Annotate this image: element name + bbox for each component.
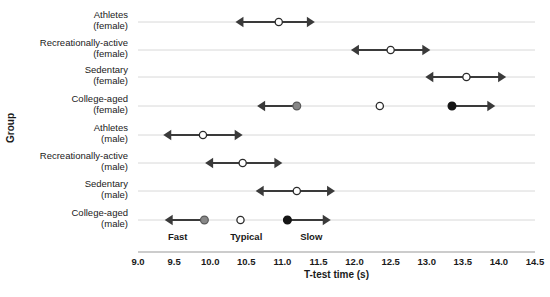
category-label-line-2: (female) xyxy=(93,48,128,59)
category-label-line-1: Sedentary xyxy=(85,178,129,189)
data-row-4 xyxy=(163,130,242,140)
category-label-line-1: Recreationally-active xyxy=(40,37,128,48)
data-marker-open-3-1[interactable] xyxy=(376,102,383,109)
data-row-3 xyxy=(257,101,495,111)
x-tick-label-5: 11.5 xyxy=(309,256,328,267)
arrow-left-6-0 xyxy=(256,186,264,196)
arrow-left-2-0 xyxy=(425,72,433,82)
category-label-line-2: (female) xyxy=(93,75,128,86)
arrow-right-5-0 xyxy=(274,158,282,168)
chart-container: Athletes(female)Recreationally-active(fe… xyxy=(0,0,550,297)
data-marker-black-7-2[interactable] xyxy=(284,216,292,224)
x-tick-label-2: 10.0 xyxy=(201,256,220,267)
data-marker-open-6-0[interactable] xyxy=(293,187,300,194)
category-label-2: Sedentary(female) xyxy=(85,64,129,86)
x-axis-title: T-test time (s) xyxy=(304,269,369,280)
data-marker-open-7-1[interactable] xyxy=(237,216,244,223)
arrow-left-7-0 xyxy=(165,215,173,225)
data-marker-open-5-0[interactable] xyxy=(239,159,246,166)
arrow-left-4-0 xyxy=(163,130,171,140)
x-tick-label-6: 12.0 xyxy=(345,256,364,267)
arrow-right-0-0 xyxy=(307,17,315,27)
y-axis-title: Group xyxy=(5,113,16,143)
zone-label-slow: Slow xyxy=(300,231,323,242)
x-tick-label-0: 9.0 xyxy=(131,256,144,267)
category-label-line-2: (male) xyxy=(101,189,128,200)
x-tick-label-11: 14.5 xyxy=(526,256,545,267)
category-label-5: Recreationally-active(male) xyxy=(40,150,128,172)
arrow-left-0-0 xyxy=(235,17,243,27)
category-label-line-2: (male) xyxy=(101,161,128,172)
data-marker-gray-3-0[interactable] xyxy=(293,102,301,110)
category-label-7: College-aged(male) xyxy=(71,207,128,229)
arrow-left-1-0 xyxy=(351,45,359,55)
arrow-right-2-0 xyxy=(498,72,506,82)
data-marker-open-4-0[interactable] xyxy=(199,131,206,138)
arrow-left-5-0 xyxy=(205,158,213,168)
arrow-right-7-2 xyxy=(323,215,331,225)
category-label-line-2: (male) xyxy=(101,218,128,229)
category-label-line-1: Recreationally-active xyxy=(40,150,128,161)
x-tick-label-7: 12.5 xyxy=(381,256,400,267)
data-row-6 xyxy=(256,186,335,196)
data-row-2 xyxy=(425,72,506,82)
x-tick-label-3: 10.5 xyxy=(237,256,256,267)
arrow-right-3-2 xyxy=(487,101,495,111)
category-label-1: Recreationally-active(female) xyxy=(40,37,128,59)
category-label-6: Sedentary(male) xyxy=(85,178,129,200)
category-label-line-1: College-aged xyxy=(71,93,128,104)
category-label-line-1: Athletes xyxy=(94,9,129,20)
category-label-3: College-aged(female) xyxy=(71,93,128,115)
category-label-line-2: (female) xyxy=(93,104,128,115)
x-tick-label-10: 14.0 xyxy=(490,256,509,267)
x-tick-label-4: 11.0 xyxy=(273,256,291,267)
data-marker-gray-7-0[interactable] xyxy=(201,216,209,224)
arrow-right-4-0 xyxy=(235,130,243,140)
category-label-line-1: Athletes xyxy=(94,122,129,133)
arrow-left-3-0 xyxy=(257,101,265,111)
category-label-0: Athletes(female) xyxy=(93,9,128,31)
x-tick-label-9: 13.5 xyxy=(454,256,473,267)
data-row-1 xyxy=(351,45,430,55)
category-label-line-2: (female) xyxy=(93,20,128,31)
x-tick-label-8: 13.0 xyxy=(417,256,436,267)
data-marker-open-0-0[interactable] xyxy=(275,18,282,25)
data-marker-open-1-0[interactable] xyxy=(387,46,394,53)
arrow-right-1-0 xyxy=(422,45,430,55)
category-label-line-2: (male) xyxy=(101,133,128,144)
ttest-time-dot-chart: Athletes(female)Recreationally-active(fe… xyxy=(0,0,550,297)
data-row-0 xyxy=(235,17,314,27)
x-tick-label-1: 9.5 xyxy=(167,256,181,267)
data-marker-open-2-0[interactable] xyxy=(463,73,470,80)
zone-label-typical: Typical xyxy=(230,231,262,242)
category-label-line-1: College-aged xyxy=(71,207,128,218)
data-marker-black-3-2[interactable] xyxy=(448,102,456,110)
arrow-right-6-0 xyxy=(327,186,335,196)
data-row-5 xyxy=(205,158,282,168)
category-label-4: Athletes(male) xyxy=(94,122,129,144)
zone-label-fast: Fast xyxy=(168,231,188,242)
category-label-line-1: Sedentary xyxy=(85,64,129,75)
